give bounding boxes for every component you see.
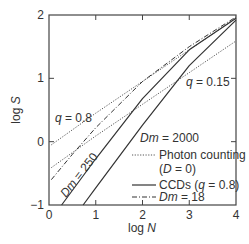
- x-tick-label: 4: [233, 208, 240, 222]
- x-tick-label: 0: [46, 208, 53, 222]
- chart: 01234−1012 log N log S q = 0.8 q = 0.15 …: [0, 0, 249, 244]
- y-tick-label: 1: [37, 71, 44, 85]
- annotation-q08: q = 0.8: [55, 111, 92, 125]
- legend: Photon counting (D = 0) CCDs (q = 0.8) D…: [132, 148, 246, 204]
- annotation-dm250: Dm = 250: [57, 150, 100, 200]
- x-tick-label: 1: [92, 208, 99, 222]
- y-tick-label: 2: [37, 8, 44, 22]
- y-tick-label: −1: [30, 198, 44, 212]
- x-tick-label: 3: [186, 208, 193, 222]
- legend-photon-label: Photon counting: [159, 148, 246, 162]
- annotation-dm2000: Dm = 2000: [140, 131, 199, 145]
- annotation-q015: q = 0.15: [186, 75, 230, 89]
- x-tick-label: 2: [139, 208, 146, 222]
- legend-dm18-label: Dm = 18: [159, 190, 205, 204]
- y-axis-label: log S: [9, 96, 23, 123]
- x-axis-label: log N: [128, 221, 156, 235]
- y-tick-label: 0: [37, 135, 44, 149]
- legend-photon-sublabel: (D = 0): [159, 162, 196, 176]
